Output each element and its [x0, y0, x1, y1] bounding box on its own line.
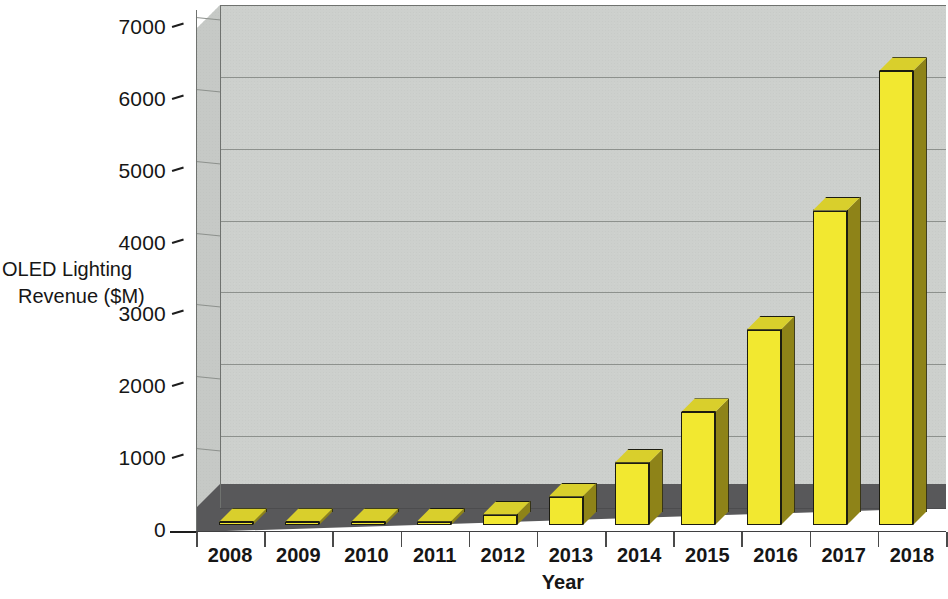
bar-2010[interactable] [351, 508, 399, 525]
y-axis-tick-label: 0 [48, 518, 166, 542]
bar-front-face [681, 412, 715, 525]
bar-front-face [615, 463, 649, 526]
bar-top-face [351, 508, 399, 522]
bar-2014[interactable] [615, 449, 663, 526]
bar-front-face [747, 330, 781, 525]
x-axis-tick-label-2011: 2011 [400, 544, 470, 567]
bar-front-face [549, 497, 583, 526]
bar-side-face [715, 398, 729, 525]
bar-2012[interactable] [483, 501, 531, 526]
x-axis-tick-label-2009: 2009 [263, 544, 333, 567]
y-axis-tick-label: 6000 [48, 87, 166, 111]
bar-2015[interactable] [681, 398, 729, 525]
bar-2013[interactable] [549, 483, 597, 526]
y-axis-tick-label: 5000 [48, 159, 166, 183]
y-axis-tick-label: 2000 [48, 374, 166, 398]
bar-top-face [219, 508, 267, 522]
bar-front-face [879, 71, 913, 525]
bar-2011[interactable] [417, 508, 465, 526]
x-axis-tick-mark [946, 532, 948, 547]
y-axis-tick-label: 1000 [48, 446, 166, 470]
y-axis-title: OLED Lighting Revenue ($M) [2, 256, 182, 310]
bar-side-face [847, 197, 861, 526]
x-axis-tick-label-2017: 2017 [809, 544, 879, 567]
axis-frame-back-left [220, 5, 221, 508]
x-axis-tick-label-2013: 2013 [536, 544, 606, 567]
plot-left-wall [196, 5, 220, 532]
x-axis-tick-label-2014: 2014 [604, 544, 674, 567]
floor-front-edge [196, 531, 946, 532]
bar-front-face [813, 211, 847, 526]
bar-front-face [285, 522, 319, 525]
bar-front-face [351, 522, 385, 525]
bar-2018[interactable] [879, 57, 927, 525]
y-axis-title-line2: Revenue ($M) [2, 283, 182, 310]
x-axis-tick-label-2018: 2018 [877, 544, 947, 567]
bar-front-face [417, 522, 451, 526]
x-axis-tick-label-2012: 2012 [468, 544, 538, 567]
y-axis-title-line1: OLED Lighting [2, 256, 182, 283]
left-wall-texture [196, 5, 220, 532]
axis-frame-top [220, 5, 946, 6]
bar-2008[interactable] [219, 508, 267, 525]
bar-side-face [913, 57, 927, 525]
y-axis-zero-dash [170, 531, 196, 533]
x-axis-tick-label-2016: 2016 [741, 544, 811, 567]
x-axis-tick-label-2015: 2015 [672, 544, 742, 567]
bar-side-face [781, 316, 795, 525]
bar-2009[interactable] [285, 508, 333, 525]
bar-top-face [285, 508, 333, 522]
bar-2017[interactable] [813, 197, 861, 526]
y-axis-tick-label: 7000 [48, 15, 166, 39]
bar-front-face [483, 515, 517, 526]
x-axis-title: Year [503, 571, 623, 594]
gridline [220, 77, 946, 78]
x-axis-tick-label-2008: 2008 [195, 544, 265, 567]
gridline [220, 149, 946, 150]
bar-top-face [417, 508, 465, 522]
axis-frame-front-left [196, 10, 197, 532]
bar-2016[interactable] [747, 316, 795, 525]
bar-front-face [219, 522, 253, 525]
y-axis-tick-label: 4000 [48, 231, 166, 255]
x-axis-tick-label-2010: 2010 [331, 544, 401, 567]
